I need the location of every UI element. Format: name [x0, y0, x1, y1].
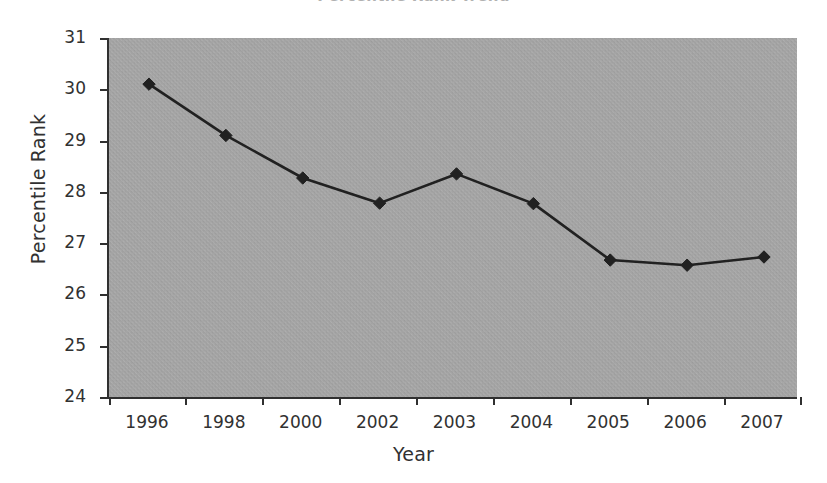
- x-tick-label: 2006: [645, 412, 725, 432]
- x-tick-mark: [647, 397, 649, 405]
- x-tick-label: 2003: [415, 412, 495, 432]
- x-tick-label: 2000: [261, 412, 341, 432]
- y-axis-title: Percentile Rank: [27, 89, 49, 289]
- y-tick-label: 25: [40, 335, 86, 355]
- x-tick-mark: [185, 397, 187, 405]
- chart-figure: Percentile Rank Trend 3130292827262524 P…: [0, 0, 827, 483]
- series-markers: [143, 78, 770, 271]
- x-tick-mark: [493, 397, 495, 405]
- chart-title-cropped: Percentile Rank Trend: [0, 0, 827, 9]
- data-point-marker: [758, 251, 770, 263]
- x-tick-label: 1998: [184, 412, 264, 432]
- x-tick-mark: [570, 397, 572, 405]
- y-axis: 3130292827262524: [0, 0, 107, 483]
- data-point-marker: [681, 259, 693, 271]
- x-axis-title: Year: [0, 443, 827, 465]
- y-tick-label: 31: [40, 27, 86, 47]
- x-tick-label: 2002: [338, 412, 418, 432]
- data-point-marker: [297, 172, 309, 184]
- x-tick-label: 2007: [722, 412, 802, 432]
- plot-area: [107, 38, 797, 399]
- x-tick-mark: [800, 397, 802, 405]
- y-tick-label: 24: [40, 386, 86, 406]
- x-tick-mark: [339, 397, 341, 405]
- x-tick-label: 1996: [107, 412, 187, 432]
- data-point-marker: [450, 168, 462, 180]
- x-tick-label: 2004: [491, 412, 571, 432]
- x-tick-mark: [416, 397, 418, 405]
- x-tick-mark: [109, 397, 111, 405]
- x-tick-mark: [724, 397, 726, 405]
- data-point-marker: [373, 197, 385, 209]
- series-canvas: [109, 38, 797, 397]
- x-tick-mark: [262, 397, 264, 405]
- chart-title-text: Percentile Rank Trend: [0, 0, 827, 1]
- x-tick-label: 2005: [568, 412, 648, 432]
